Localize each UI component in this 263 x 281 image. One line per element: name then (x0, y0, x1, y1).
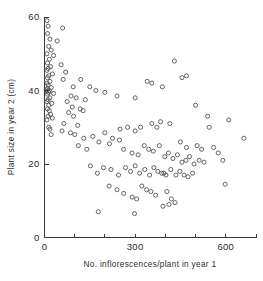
data-point (147, 147, 151, 151)
data-point (45, 52, 49, 56)
data-point (172, 59, 176, 63)
data-point (191, 171, 195, 175)
data-point (118, 127, 122, 131)
data-point (70, 105, 74, 109)
plot-canvas: 0300600 0204060 No. inflorescences/plant… (0, 0, 263, 281)
data-point (197, 158, 201, 162)
scatter-plot-figure: 0300600 0204060 No. inflorescences/plant… (0, 0, 263, 281)
data-point (148, 173, 152, 177)
data-point (85, 147, 89, 151)
data-point (88, 164, 92, 168)
data-point (202, 160, 206, 164)
data-point (52, 91, 56, 95)
data-point (107, 184, 111, 188)
data-point (132, 212, 136, 216)
data-point (206, 114, 210, 118)
data-point (178, 169, 182, 173)
data-point (79, 77, 83, 81)
y-axis-tick-labels: 0204060 (28, 11, 39, 243)
data-point (71, 114, 75, 118)
data-point-markers (44, 19, 246, 216)
data-point (50, 116, 54, 120)
data-point (216, 151, 220, 155)
data-point (83, 98, 87, 102)
data-point (126, 125, 130, 129)
data-point (55, 39, 59, 43)
data-point (82, 136, 86, 140)
data-point (129, 169, 133, 173)
data-point (150, 122, 154, 126)
data-point (96, 210, 100, 214)
data-point (157, 144, 161, 148)
data-point (49, 133, 53, 137)
y-tick-label: 40 (28, 85, 39, 96)
data-point (103, 90, 107, 94)
data-point (242, 136, 246, 140)
data-point (192, 162, 196, 166)
data-point (45, 31, 49, 35)
data-point (130, 151, 134, 155)
data-point (186, 175, 190, 179)
data-point (138, 171, 142, 175)
axes (44, 17, 256, 238)
data-point (163, 155, 167, 159)
data-point (76, 144, 80, 148)
data-point (64, 70, 68, 74)
data-point (184, 158, 188, 162)
x-tick-label: 600 (217, 241, 234, 252)
data-point (165, 190, 169, 194)
data-point (156, 169, 160, 173)
data-point (67, 111, 71, 115)
data-point (74, 96, 78, 100)
data-point (142, 144, 146, 148)
data-point (167, 202, 171, 206)
data-point (154, 193, 158, 197)
x-axis-title: No. inflorescences/plant in year 1 (84, 260, 217, 269)
data-point (97, 140, 101, 144)
data-point (88, 85, 92, 89)
data-point (166, 151, 170, 155)
data-point (212, 145, 216, 149)
data-point (101, 166, 105, 170)
y-tick-label: 0 (34, 232, 40, 243)
data-point (169, 167, 173, 171)
data-point (195, 144, 199, 148)
y-tick-label: 60 (28, 11, 39, 22)
data-point (143, 167, 147, 171)
data-point (122, 191, 126, 195)
data-point (59, 63, 63, 67)
y-tick-label: 20 (28, 158, 39, 169)
data-point (76, 123, 80, 127)
data-point (62, 122, 66, 126)
data-point (116, 173, 120, 177)
data-point (174, 173, 178, 177)
data-point (175, 153, 179, 157)
data-point (71, 85, 75, 89)
data-point (68, 131, 72, 135)
data-point (140, 184, 144, 188)
data-point (133, 164, 137, 168)
data-point (158, 120, 162, 124)
data-point (109, 167, 113, 171)
data-point (45, 61, 49, 65)
data-point (65, 99, 69, 103)
data-point (110, 136, 114, 140)
data-point (60, 129, 64, 133)
data-point (200, 147, 204, 151)
data-point (61, 77, 65, 81)
data-point (184, 145, 188, 149)
data-point (180, 160, 184, 164)
data-point (173, 201, 177, 205)
data-point (169, 197, 173, 201)
data-point (61, 26, 65, 30)
data-point (45, 118, 49, 122)
data-point (152, 166, 156, 170)
data-point (45, 19, 49, 23)
data-point (94, 88, 98, 92)
data-point (48, 37, 52, 41)
data-point (133, 129, 137, 133)
y-axis-title: Plant size in year 2 (cm) (7, 79, 16, 176)
data-point (69, 94, 73, 98)
data-point (145, 188, 149, 192)
data-point (150, 81, 154, 85)
